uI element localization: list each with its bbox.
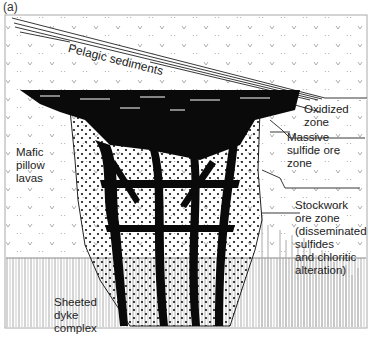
label-oxidized-zone: Oxidized zone [304, 103, 349, 129]
label-massive-sulfide: Massive sulfide ore zone [287, 131, 340, 170]
label-mafic-pillow-lavas: Mafic pillow lavas [16, 146, 45, 185]
label-stockwork-ore-zone: Stockwork ore zone (disseminated sulfide… [295, 199, 367, 277]
label-sheeted-dyke-complex: Sheeted dyke complex [54, 296, 97, 335]
